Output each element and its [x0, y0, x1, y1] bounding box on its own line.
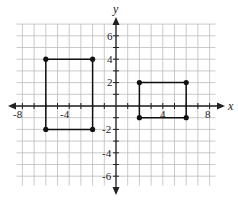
vertex-point [43, 127, 48, 132]
x-tick-label: 8 [205, 108, 211, 120]
x-axis-label: x [227, 99, 234, 113]
y-tick-label: 2 [107, 76, 113, 88]
y-tick-label: 4 [107, 53, 113, 65]
y-tick-label: -2 [102, 123, 111, 135]
x-tick-label: -8 [13, 108, 23, 120]
y-tick-label: 6 [107, 30, 113, 42]
y-axis-bottom-arrow-icon [113, 187, 120, 195]
x-axis-right-arrow-icon [217, 103, 225, 110]
vertex-point [184, 115, 189, 120]
vertex-point [43, 57, 48, 62]
vertex-point [90, 57, 95, 62]
y-tick-label: -4 [102, 147, 112, 159]
vertex-point [137, 115, 142, 120]
axes: x y -8 -4 4 8 6 4 2 -2 -4 -6 [8, 2, 234, 195]
vertex-point [90, 127, 95, 132]
x-tick-label: -4 [60, 108, 70, 120]
vertex-point [184, 80, 189, 85]
y-tick-label: -6 [102, 170, 112, 182]
vertex-point [137, 80, 142, 85]
y-axis-label: y [112, 2, 119, 16]
coordinate-plane: x y -8 -4 4 8 6 4 2 -2 -4 -6 [0, 0, 238, 203]
